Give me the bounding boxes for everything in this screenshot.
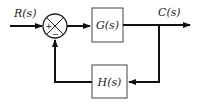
output-signal: C(s) bbox=[123, 6, 190, 25]
forward-block: G(s) bbox=[92, 8, 123, 42]
forward-block-label: G(s) bbox=[96, 19, 119, 32]
block-diagram: R(s) + − G(s) C(s) H(s) bbox=[0, 0, 201, 107]
summing-junction: + − bbox=[43, 14, 67, 39]
input-signal: R(s) bbox=[10, 7, 42, 26]
feedback-block: H(s) bbox=[92, 65, 127, 98]
input-label: R(s) bbox=[13, 7, 37, 20]
output-label: C(s) bbox=[158, 6, 181, 19]
feedback-block-label: H(s) bbox=[97, 76, 122, 89]
minus-sign: − bbox=[52, 30, 59, 39]
